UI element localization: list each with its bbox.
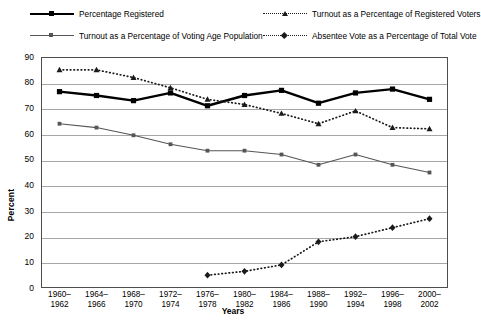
data-point-marker [242, 93, 247, 98]
y-tick-label: 30 [4, 207, 34, 216]
legend-swatch-solid-thick-square-icon [30, 8, 74, 19]
y-tick-label: 0 [4, 284, 34, 293]
data-point-marker [169, 142, 173, 146]
data-point-marker [94, 93, 99, 98]
y-tick-label: 80 [4, 78, 34, 87]
y-tick-label: 10 [4, 258, 34, 267]
y-tick-label: 90 [4, 53, 34, 62]
series-line [60, 124, 430, 173]
data-point-marker [168, 90, 173, 95]
legend-swatch-solid-thin-square-icon [30, 30, 74, 41]
x-axis-title: Years [0, 306, 466, 316]
data-point-marker [353, 233, 359, 240]
data-point-marker [57, 89, 62, 94]
data-point-marker [390, 86, 395, 91]
y-axis-ticks: 0102030405060708090 [0, 57, 38, 288]
data-point-marker [427, 215, 433, 222]
legend-label: Percentage Registered [79, 9, 164, 19]
legend-swatch-dotted-triangle-icon [263, 8, 307, 19]
legend-item-percentage-registered: Percentage Registered [30, 8, 164, 19]
data-point-marker [243, 149, 247, 153]
legend-label: Turnout as a Percentage of Voting Age Po… [79, 31, 263, 41]
data-point-marker [279, 110, 285, 115]
legend-item-turnout-voting-age-population: Turnout as a Percentage of Voting Age Po… [30, 30, 263, 41]
data-point-marker [206, 149, 210, 153]
data-point-marker [317, 163, 321, 167]
legend-swatch-dotted-diamond-icon [263, 30, 307, 41]
data-point-marker [427, 97, 432, 102]
data-point-marker [390, 125, 396, 130]
data-point-marker [279, 88, 284, 93]
data-point-marker [57, 67, 63, 72]
series-4 [205, 215, 433, 278]
data-point-marker [205, 103, 210, 108]
data-point-marker [428, 171, 432, 175]
series-layer [41, 57, 448, 288]
y-tick-label: 40 [4, 181, 34, 190]
data-point-marker [354, 153, 358, 157]
data-point-marker [132, 133, 136, 137]
series-2 [57, 67, 433, 131]
data-point-marker [131, 98, 136, 103]
data-point-marker [205, 272, 211, 279]
data-point-marker [279, 262, 285, 269]
plot-container: Percent 0102030405060708090 1960–1962196… [0, 52, 466, 330]
data-point-marker [427, 126, 433, 131]
data-point-marker [58, 122, 62, 126]
data-point-marker [280, 153, 284, 157]
legend-label: Absentee Vote as a Percentage of Total V… [312, 31, 477, 41]
legend-item-turnout-registered-voters: Turnout as a Percentage of Registered Vo… [263, 8, 481, 19]
series-line [60, 70, 430, 129]
data-point-marker [353, 108, 359, 113]
data-point-marker [95, 126, 99, 130]
data-point-marker [94, 67, 100, 72]
data-point-marker [353, 90, 358, 95]
data-point-marker [242, 268, 248, 275]
y-tick-label: 20 [4, 232, 34, 241]
y-tick-label: 70 [4, 104, 34, 113]
series-line [208, 219, 430, 275]
data-point-marker [316, 101, 321, 106]
y-tick-label: 50 [4, 155, 34, 164]
data-point-marker [316, 238, 322, 245]
legend-item-absentee-vote: Absentee Vote as a Percentage of Total V… [263, 30, 477, 41]
series-3 [58, 122, 432, 175]
chart-legend: Percentage Registered Turnout as a Perce… [0, 0, 466, 52]
legend-label: Turnout as a Percentage of Registered Vo… [312, 9, 481, 19]
data-point-marker [390, 224, 396, 231]
data-point-marker [391, 163, 395, 167]
y-tick-label: 60 [4, 130, 34, 139]
data-point-marker [205, 96, 211, 101]
